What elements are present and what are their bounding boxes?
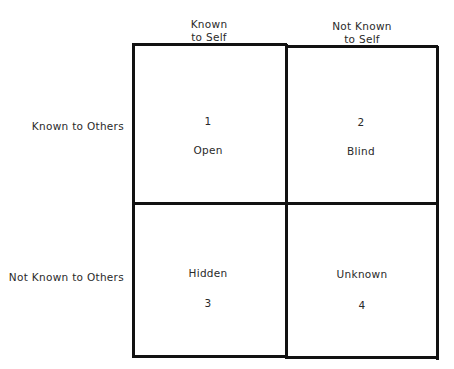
grid-bottom-border-left: [132, 355, 287, 358]
column-header-known-to-self: Known to Self: [191, 18, 228, 44]
grid-left-border: [132, 44, 135, 358]
cell-open-number: 1: [205, 115, 212, 128]
cell-unknown-number: 4: [359, 299, 366, 312]
cell-hidden-label: Hidden: [188, 267, 227, 280]
row-header-not-known-to-others: Not Known to Others: [9, 271, 124, 284]
column-header-not-known-to-self: Not Known to Self: [332, 20, 392, 46]
cell-hidden-number: 3: [205, 297, 212, 310]
grid-top-border-right: [286, 45, 438, 48]
cell-blind-label: Blind: [347, 145, 375, 158]
cell-open-label: Open: [193, 144, 222, 157]
column-header-line: Not Known: [332, 20, 392, 33]
row-header-known-to-others: Known to Others: [32, 120, 124, 133]
column-header-line: Known: [191, 18, 228, 31]
cell-blind-number: 2: [358, 116, 365, 129]
grid-horizontal-divider: [132, 202, 438, 205]
cell-unknown-label: Unknown: [337, 268, 388, 281]
grid-top-border-left: [132, 43, 287, 46]
grid-bottom-border-right: [286, 356, 438, 359]
